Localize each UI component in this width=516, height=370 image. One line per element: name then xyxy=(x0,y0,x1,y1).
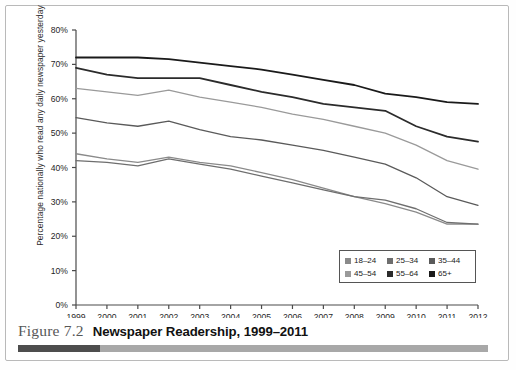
chart-legend: 18–24 25–34 35–44 45–54 55–64 xyxy=(339,250,476,283)
legend-swatch-icon xyxy=(387,258,393,264)
series-line-25-34 xyxy=(76,159,478,224)
legend-label: 25–34 xyxy=(396,256,418,265)
figure-container: 0%10%20%30%40%50%60%70%80%19992000200120… xyxy=(0,0,516,370)
y-axis-title: Percentage nationally who read any daily… xyxy=(35,0,46,256)
y-tick-label: 30% xyxy=(51,197,69,207)
legend-label: 55–64 xyxy=(396,269,418,278)
series-line-55-64 xyxy=(76,68,478,142)
caption-rule-light-segment xyxy=(100,345,488,352)
caption-rule xyxy=(18,345,488,352)
legend-row: 45–54 55–64 65+ xyxy=(345,267,471,280)
legend-item-65-plus: 65+ xyxy=(429,269,471,278)
legend-label: 35–44 xyxy=(438,256,460,265)
legend-label: 45–54 xyxy=(354,269,376,278)
legend-item-45-54: 45–54 xyxy=(345,269,387,278)
legend-label: 18–24 xyxy=(354,256,376,265)
legend-swatch-icon xyxy=(429,271,435,277)
legend-swatch-icon xyxy=(345,258,351,264)
figure-number: Figure 7.2 xyxy=(18,322,84,339)
legend-row: 18–24 25–34 35–44 xyxy=(345,254,471,267)
y-tick-label: 80% xyxy=(51,25,69,35)
series-line-18-24 xyxy=(76,154,478,224)
legend-label: 65+ xyxy=(438,269,452,278)
y-tick-label: 10% xyxy=(51,266,69,276)
series-line-45-54 xyxy=(76,88,478,169)
legend-item-18-24: 18–24 xyxy=(345,256,387,265)
y-tick-label: 50% xyxy=(51,128,69,138)
legend-item-35-44: 35–44 xyxy=(429,256,471,265)
y-tick-label: 0% xyxy=(56,300,69,310)
figure-caption: Figure 7.2Newspaper Readership, 1999–201… xyxy=(0,318,516,370)
series-line-35-44 xyxy=(76,118,478,206)
figure-title: Newspaper Readership, 1999–2011 xyxy=(93,324,308,339)
legend-item-25-34: 25–34 xyxy=(387,256,429,265)
y-tick-label: 60% xyxy=(51,94,69,104)
line-chart: 0%10%20%30%40%50%60%70%80%19992000200120… xyxy=(0,0,516,318)
legend-item-55-64: 55–64 xyxy=(387,269,429,278)
caption-rule-dark-segment xyxy=(18,345,100,352)
legend-swatch-icon xyxy=(387,271,393,277)
legend-swatch-icon xyxy=(429,258,435,264)
legend-swatch-icon xyxy=(345,271,351,277)
y-tick-label: 70% xyxy=(51,59,69,69)
y-tick-label: 20% xyxy=(51,231,69,241)
series-line-65- xyxy=(76,58,478,104)
y-tick-label: 40% xyxy=(51,163,69,173)
caption-line: Figure 7.2Newspaper Readership, 1999–201… xyxy=(18,322,308,340)
